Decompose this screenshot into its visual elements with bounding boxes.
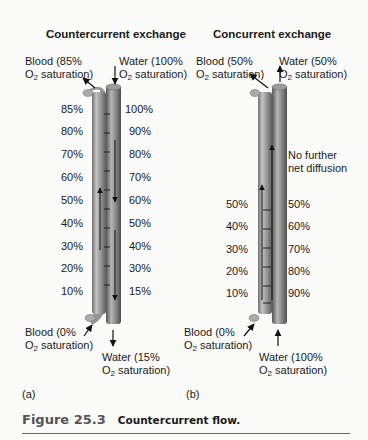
pct: 90% <box>288 287 310 299</box>
panel-a-blood-in-label: Blood (0% O2 saturation) <box>25 326 93 355</box>
pct: 40% <box>129 240 151 252</box>
panel-a-water-in-label: Water (100% O2 saturation) <box>119 55 187 84</box>
pct: 85% <box>53 103 83 115</box>
caption-rule <box>22 433 350 434</box>
pct: 10% <box>218 287 248 299</box>
pct: 50% <box>288 198 310 210</box>
panel-a-letter: (a) <box>22 388 35 400</box>
pct: 15% <box>129 285 151 297</box>
panel-b-blood-in-label: Blood (0% O2 saturation) <box>184 326 252 355</box>
pct: 60% <box>53 171 83 183</box>
figure-caption: Figure 25.3Countercurrent flow. <box>22 412 240 427</box>
panel-b-letter: (b) <box>186 388 199 400</box>
pct: 50% <box>218 198 248 210</box>
pct: 80% <box>129 148 151 160</box>
pct: 30% <box>53 240 83 252</box>
panel-b-water-out-label: Water (50% O2 saturation) <box>279 55 347 84</box>
pct: 40% <box>53 217 83 229</box>
pct: 30% <box>129 262 151 274</box>
pct: 100% <box>125 103 153 115</box>
panel-a-title: Countercurrent exchange <box>46 28 186 40</box>
pct: 70% <box>288 243 310 255</box>
panel-b-water-in-label: Water (100% O2 saturation) <box>259 351 327 380</box>
pct: 20% <box>218 265 248 277</box>
pct: 30% <box>218 243 248 255</box>
pct: 50% <box>53 194 83 206</box>
panel-b-equilibrium-note: No further net diffusion <box>288 149 347 175</box>
pct: 70% <box>53 148 83 160</box>
panel-b-vessels <box>244 66 287 346</box>
pct: 20% <box>53 262 83 274</box>
pct: 70% <box>129 171 151 183</box>
pct: 90% <box>129 125 151 137</box>
pct: 80% <box>53 125 83 137</box>
pct: 60% <box>288 220 310 232</box>
pct: 40% <box>218 220 248 232</box>
figure-caption-text: Countercurrent flow. <box>118 414 241 426</box>
panel-a-water-out-label: Water (15% O2 saturation) <box>102 351 170 380</box>
figure-number: Figure 25.3 <box>22 412 106 427</box>
panel-b-blood-out-label: Blood (50% O2 saturation) <box>196 55 264 84</box>
pct: 10% <box>53 285 83 297</box>
pct: 50% <box>129 217 151 229</box>
pct: 60% <box>129 194 151 206</box>
pct: 80% <box>288 265 310 277</box>
panel-a-vessels <box>83 66 121 346</box>
panel-a-blood-out-label: Blood (85% O2 saturation) <box>25 55 93 84</box>
panel-b-title: Concurrent exchange <box>213 28 331 40</box>
